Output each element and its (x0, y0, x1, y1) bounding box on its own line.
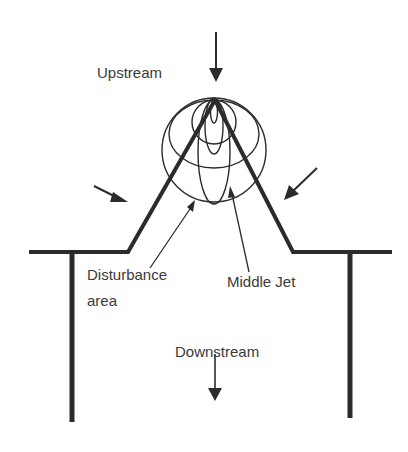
left-inflow-arrow-icon (94, 186, 128, 202)
middle-jet-shape (198, 98, 230, 204)
disturbance-circles (162, 98, 266, 202)
right-inflow-arrow-icon (284, 168, 317, 200)
channel-structure (29, 100, 392, 422)
flow-diagram (0, 0, 408, 452)
disturbance-area-label-line1: Disturbance (87, 266, 167, 284)
upstream-label: Upstream (97, 64, 162, 82)
upstream-arrow-icon (209, 32, 223, 82)
disturbance-area-label-line2: area (87, 292, 117, 310)
downstream-label: Downstream (175, 343, 259, 361)
label-pointers (150, 186, 249, 272)
downstream-arrow-icon (208, 354, 222, 401)
middle-jet-label: Middle Jet (227, 273, 295, 291)
